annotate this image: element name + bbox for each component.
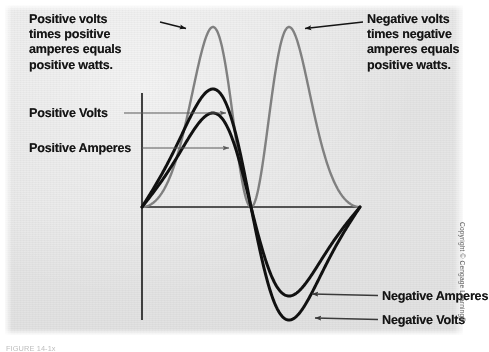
annotation-positive-amperes: Positive Amperes xyxy=(29,141,131,156)
figure-root: Positive volts times positive amperes eq… xyxy=(0,0,489,352)
arrow-negative-watts xyxy=(305,22,363,29)
arrow-negative-amperes xyxy=(312,294,378,296)
copyright-notice: Copyright © Cengage Learning® xyxy=(459,222,466,322)
annotation-negative-volts: Negative Volts xyxy=(382,313,465,328)
arrow-positive-watts xyxy=(160,22,186,29)
arrow-negative-volts xyxy=(315,318,378,320)
volts-curve xyxy=(142,89,360,320)
annotation-negative-amperes: Negative Amperes xyxy=(382,289,488,304)
annotation-negative-watts: Negative volts times negative amperes eq… xyxy=(367,12,485,73)
watts-curve xyxy=(142,27,360,207)
annotation-positive-watts: Positive volts times positive amperes eq… xyxy=(29,12,159,73)
figure-caption: FIGURE 14-1x xyxy=(6,344,56,352)
annotation-positive-volts: Positive Volts xyxy=(29,106,108,121)
